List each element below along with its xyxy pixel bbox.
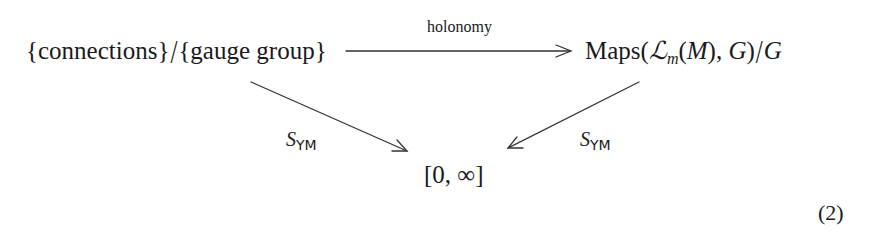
group-g: G — [728, 37, 746, 64]
holonomy-label: holonomy — [427, 19, 492, 35]
open-paren: ( — [678, 37, 686, 64]
left-action-arrow — [251, 82, 407, 151]
holonomy-arrow — [346, 45, 571, 57]
script-l-symbol: ℒ — [649, 36, 667, 65]
comma: ), — [708, 37, 729, 64]
node-maps-loops-mod-g: Maps(ℒm(M), G)/G — [585, 38, 782, 63]
maps-prefix: Maps( — [585, 37, 649, 64]
action-subscript-ym: YM — [296, 137, 317, 153]
close-paren: ) — [747, 37, 755, 64]
action-s: S — [286, 128, 296, 150]
subscript-m: m — [667, 50, 679, 67]
node-connections-mod-gauge: {connections}/{gauge group} — [26, 38, 327, 63]
quotient-slash: / — [756, 35, 763, 69]
action-s: S — [580, 128, 590, 150]
right-action-arrow — [508, 82, 639, 148]
quotient-slash: / — [170, 35, 177, 69]
left-sym-label: SYM — [286, 129, 317, 149]
manifold-m: M — [687, 37, 708, 64]
gauge-group-set: {gauge group} — [178, 37, 326, 64]
right-sym-label: SYM — [580, 129, 611, 149]
action-subscript-ym: YM — [590, 137, 611, 153]
group-g-quotient: G — [764, 37, 782, 64]
equation-number: (2) — [818, 202, 844, 224]
node-interval-zero-infinity: [0, ∞] — [424, 162, 483, 187]
connections-set: {connections} — [26, 37, 169, 64]
